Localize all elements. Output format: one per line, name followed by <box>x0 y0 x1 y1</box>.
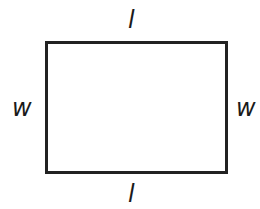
length-label-bottom: l <box>128 182 135 206</box>
rectangle-diagram: l l w w <box>0 0 260 209</box>
length-label-top: l <box>128 8 135 32</box>
width-label-left: w <box>12 96 32 120</box>
rectangle-shape <box>45 41 228 174</box>
width-label-right: w <box>236 96 256 120</box>
